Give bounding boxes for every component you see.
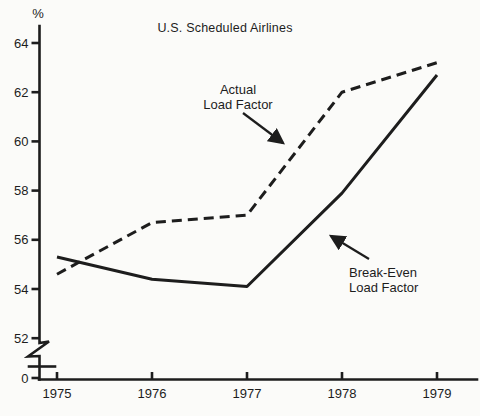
annotation-line: Load Factor — [178, 98, 298, 113]
y-tick-label: 60 — [14, 134, 28, 149]
break-even-load-factor-label: Break-Even Load Factor — [349, 266, 459, 295]
y-tick-label: 52 — [14, 331, 28, 346]
annotation-line: Break-Even — [349, 266, 459, 281]
y-axis — [28, 26, 49, 380]
x-tick-label: 1976 — [138, 386, 167, 401]
y-axis-ticks: 646260585654520 — [14, 36, 40, 386]
y-tick-label: 64 — [14, 36, 28, 51]
y-tick-label: 54 — [14, 282, 28, 297]
y-tick-label: 0 — [21, 371, 28, 386]
y-tick-label: 56 — [14, 232, 28, 247]
break-even-load-factor-arrow — [331, 236, 369, 259]
x-tick-label: 1975 — [43, 386, 72, 401]
chart-page: 646260585654520 19751976197719781979 U.S… — [0, 0, 480, 416]
annotation-line: Actual — [178, 83, 298, 98]
x-tick-label: 1977 — [233, 386, 262, 401]
actual-load-factor-arrow — [243, 113, 283, 143]
y-tick-label: 58 — [14, 183, 28, 198]
actual-load-factor-label: Actual Load Factor — [178, 83, 298, 112]
x-axis-ticks: 19751976197719781979 — [43, 372, 452, 401]
x-tick-label: 1978 — [328, 386, 357, 401]
y-axis-unit-label: % — [28, 6, 48, 21]
annotation-line: Load Factor — [349, 281, 459, 296]
x-tick-label: 1979 — [423, 386, 452, 401]
y-tick-label: 62 — [14, 85, 28, 100]
chart-title: U.S. Scheduled Airlines — [120, 21, 330, 35]
line-chart: 646260585654520 19751976197719781979 — [0, 0, 480, 416]
